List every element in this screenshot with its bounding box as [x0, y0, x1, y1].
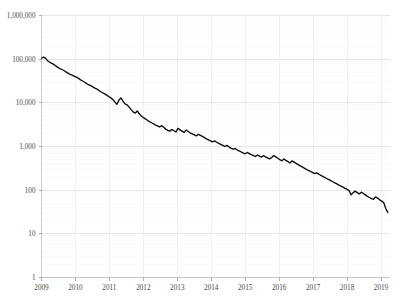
x-tick-label: 2018 — [340, 284, 355, 292]
y-tick-label: 1,000 — [19, 143, 36, 151]
chart-container: 1,000,000100,00010,0001,000100101 200920… — [0, 0, 400, 304]
x-tick-label: 2013 — [170, 284, 185, 292]
x-tick-label: 2019 — [374, 284, 389, 292]
x-tick-label: 2010 — [68, 284, 83, 292]
x-tick-marks — [42, 278, 382, 281]
y-tick-marks — [39, 16, 42, 278]
x-tick-label: 2012 — [136, 284, 151, 292]
series-line — [42, 57, 388, 212]
line-chart: 1,000,000100,00010,0001,000100101 200920… — [0, 0, 400, 304]
y-tick-label: 10 — [28, 230, 36, 238]
y-axis-tick-labels: 1,000,000100,00010,0001,000100101 — [7, 12, 36, 282]
x-tick-label: 2017 — [306, 284, 321, 292]
x-tick-label: 2014 — [204, 284, 219, 292]
y-tick-label: 1 — [32, 274, 36, 282]
x-tick-label: 2009 — [34, 284, 49, 292]
x-tick-label: 2015 — [238, 284, 253, 292]
x-tick-label: 2011 — [102, 284, 117, 292]
x-axis-tick-labels: 2009201020112012201320142015201620172018… — [34, 284, 388, 292]
y-tick-label: 100,000 — [12, 56, 36, 64]
y-gridlines — [42, 16, 390, 278]
data-series-group — [42, 57, 388, 212]
y-tick-label: 100 — [25, 187, 36, 195]
y-tick-label: 1,000,000 — [7, 12, 36, 20]
x-tick-label: 2016 — [272, 284, 287, 292]
y-tick-label: 10,000 — [16, 99, 36, 107]
